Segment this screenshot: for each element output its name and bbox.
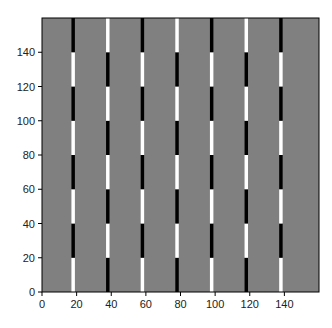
stripe-segment (175, 121, 178, 155)
stripe-segment (175, 189, 178, 223)
stripe-segment (141, 155, 144, 189)
y-tick-label: 0 (29, 286, 35, 298)
stripe-segment (210, 18, 213, 52)
stripe-segment (71, 18, 74, 52)
x-axis: 020406080100120140 (39, 292, 294, 310)
stripe-segment (279, 87, 282, 121)
stripe-segment (210, 87, 213, 121)
stripe-segment (175, 52, 178, 86)
stripe-segment (210, 121, 213, 155)
y-tick-label: 60 (23, 183, 35, 195)
stripe-segment (279, 121, 282, 155)
x-tick-label: 80 (174, 298, 186, 310)
stripe-segment (210, 52, 213, 86)
stripe-segment (71, 189, 74, 223)
stripe-segment (175, 258, 178, 292)
x-tick-label: 40 (105, 298, 117, 310)
stripe-segment (141, 18, 144, 52)
stripe-segment (106, 224, 109, 258)
y-tick-label: 40 (23, 218, 35, 230)
stripe-segment (71, 258, 74, 292)
stripe-segment (71, 87, 74, 121)
stripe-segment (279, 52, 282, 86)
stripe-segment (210, 155, 213, 189)
stripe-segment (245, 87, 248, 121)
stripe-segment (106, 18, 109, 52)
stripe-segment (210, 189, 213, 223)
plot-area (42, 18, 319, 292)
stripe-segment (106, 121, 109, 155)
stripe-segment (71, 52, 74, 86)
stripe-segment (210, 258, 213, 292)
stripe-segment (71, 155, 74, 189)
stripe-segment (71, 121, 74, 155)
stripe-segment (245, 258, 248, 292)
stripe-segment (279, 18, 282, 52)
plot-background (42, 18, 319, 292)
stripe-segment (279, 224, 282, 258)
stripe-segment (175, 224, 178, 258)
stripe-segment (245, 224, 248, 258)
x-tick-label: 0 (39, 298, 45, 310)
stripe-segment (279, 155, 282, 189)
stripe-segment (175, 87, 178, 121)
x-tick-label: 20 (71, 298, 83, 310)
stripe-segment (245, 18, 248, 52)
stripe-pattern-chart: 020406080100120140 020406080100120140 (0, 0, 332, 328)
stripe-segment (71, 224, 74, 258)
stripe-segment (106, 189, 109, 223)
stripe-segment (106, 87, 109, 121)
stripe-segment (175, 155, 178, 189)
y-tick-label: 140 (17, 46, 35, 58)
stripe-segment (106, 258, 109, 292)
y-tick-label: 100 (17, 115, 35, 127)
stripe-segment (279, 258, 282, 292)
stripe-segment (141, 224, 144, 258)
stripe-segment (106, 52, 109, 86)
x-tick-label: 100 (206, 298, 224, 310)
y-tick-label: 20 (23, 252, 35, 264)
stripe-segment (141, 258, 144, 292)
stripe-segment (245, 189, 248, 223)
y-axis: 020406080100120140 (17, 46, 42, 298)
stripe-segment (279, 189, 282, 223)
stripe-segment (210, 224, 213, 258)
y-tick-label: 80 (23, 149, 35, 161)
stripe-segment (245, 155, 248, 189)
stripe-segment (141, 52, 144, 86)
x-tick-label: 120 (241, 298, 259, 310)
stripe-segment (245, 121, 248, 155)
stripe-segment (141, 189, 144, 223)
y-tick-label: 120 (17, 81, 35, 93)
stripe-segment (175, 18, 178, 52)
x-tick-label: 140 (275, 298, 293, 310)
stripe-segment (245, 52, 248, 86)
stripe-segment (141, 121, 144, 155)
stripe-segment (141, 87, 144, 121)
x-tick-label: 60 (140, 298, 152, 310)
stripe-segment (106, 155, 109, 189)
